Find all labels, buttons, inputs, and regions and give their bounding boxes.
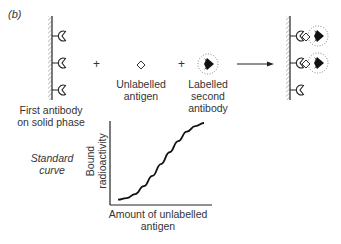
labelled-second-antibody-label: Labelled second antibody: [183, 78, 233, 114]
plus-sign: +: [93, 58, 100, 70]
unlabelled-antigen-label: Unlabelled antigen: [111, 78, 171, 102]
antigen-icon: [137, 61, 145, 69]
y-axis-label: Bound radioactivity: [84, 126, 108, 196]
plus-sign: +: [178, 58, 185, 70]
standard-curve-label: Standard curve: [22, 152, 82, 176]
first-antibody-icon: [52, 58, 66, 68]
first-antibody-icon: [52, 85, 66, 95]
right-arrow-icon: [237, 62, 274, 67]
solid-phase-right: [286, 16, 328, 100]
standard-curve-chart: [110, 121, 212, 205]
solid-phase-left: [48, 16, 66, 100]
sigmoid-curve: [118, 123, 204, 200]
first-antibody-label: First antibody on solid phase: [6, 104, 96, 128]
first-antibody-icon: [52, 31, 66, 41]
labelled-antibody-icon: [198, 54, 218, 74]
x-axis-label: Amount of unlabelled antigen: [98, 208, 218, 232]
